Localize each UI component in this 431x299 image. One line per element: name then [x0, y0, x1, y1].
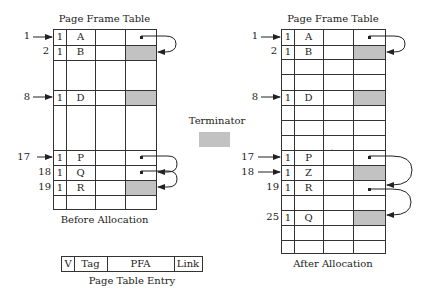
- link-arrow: [369, 156, 412, 185]
- link-arrow: [141, 36, 176, 52]
- entry-format-caption: Page Table Entry: [61, 275, 203, 286]
- field-link: Link: [174, 257, 202, 271]
- link-arrow: [141, 171, 177, 187]
- pointer-arrows: [0, 0, 431, 299]
- link-arrow: [141, 156, 177, 172]
- page-table-entry-format: V Tag PFA Link: [61, 256, 203, 272]
- field-v: V: [62, 257, 74, 271]
- link-arrow: [369, 36, 405, 52]
- field-tag: Tag: [74, 257, 107, 271]
- field-pfa: PFA: [107, 257, 174, 271]
- link-arrow: [369, 189, 411, 215]
